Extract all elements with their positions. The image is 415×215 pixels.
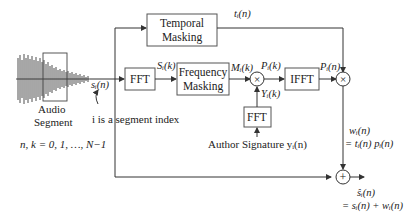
segment-index-label: i is a segment index — [92, 113, 180, 125]
signal-w-i-n: wᵢ(n) — [349, 125, 370, 137]
multiply-symbol: × — [254, 73, 260, 85]
signal-s-hat-equation: = sᵢ(n) + wᵢ(n) — [342, 200, 403, 212]
signal-t-i-n: tᵢ(n) — [234, 8, 251, 20]
audio-waveform — [16, 53, 90, 104]
add-symbol: + — [340, 170, 347, 184]
temporal-masking-label-2: Masking — [162, 31, 203, 44]
signal-w-i-n-equation: = tᵢ(n) pᵢ(n) — [345, 138, 394, 150]
index-range: n, k = 0, 1, …, N−1 — [20, 138, 106, 150]
audio-label-1: Audio — [38, 103, 66, 115]
fft-label: FFT — [130, 73, 150, 85]
multiply-symbol-2: × — [340, 73, 346, 85]
frequency-masking-label-2: Masking — [183, 80, 224, 93]
fft-signature-label: FFT — [247, 111, 267, 123]
segment-index-arrow — [96, 90, 98, 104]
audio-label-2: Segment — [34, 116, 73, 128]
signal-s-hat: ŝᵢ(n) — [357, 187, 375, 199]
frequency-masking-label-1: Frequency — [179, 66, 228, 79]
signal-s-i-n: sᵢ(n) — [91, 79, 109, 91]
signal-P-i-n: Pᵢ(n) — [319, 61, 341, 73]
signal-Y-i-k: Yᵢ(k) — [261, 88, 281, 100]
author-signature-label: Author Signature yᵢ(n) — [208, 138, 307, 151]
signal-P-i-k: Pᵢ(k) — [260, 60, 281, 72]
temporal-masking-label-1: Temporal — [160, 17, 204, 30]
signal-M-i-k: Mᵢ(k) — [230, 62, 254, 74]
watermarked-label-1: Watermarked — [344, 212, 403, 215]
segment-window — [43, 53, 67, 101]
watermark-diagram: Audio Segment n, k = 0, 1, …, N−1 sᵢ(n) … — [0, 0, 415, 215]
signal-S-i-k: Sᵢ(k) — [157, 60, 176, 72]
ifft-label: IFFT — [290, 73, 314, 85]
